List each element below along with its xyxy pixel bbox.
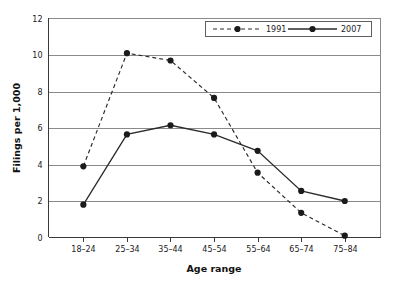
data-point-2007 (124, 131, 130, 137)
y-tick-label: 4 (37, 161, 42, 170)
x-tick-label: 45–54 (202, 245, 226, 254)
data-point-1991 (342, 233, 348, 239)
y-tick-label: 8 (37, 88, 42, 97)
data-point-2007 (80, 202, 86, 208)
chart-legend: 19912007 (206, 22, 372, 37)
data-point-2007 (298, 188, 304, 194)
data-point-1991 (124, 50, 130, 56)
data-point-1991 (167, 57, 173, 63)
data-point-2007 (255, 148, 261, 154)
legend-label-2007: 2007 (341, 25, 361, 34)
x-tick-label: 75–84 (333, 245, 357, 254)
data-point-1991 (255, 170, 261, 176)
y-tick-label: 10 (32, 51, 42, 60)
chart-container: 024681012 18–2425–3435–4445–5455–6465–74… (0, 0, 395, 281)
legend-marker-2007 (309, 26, 315, 32)
x-tick-label: 55–64 (246, 245, 270, 254)
data-point-1991 (80, 163, 86, 169)
line-chart: 024681012 18–2425–3435–4445–5455–6465–74… (0, 0, 395, 281)
y-tick-label: 2 (37, 197, 42, 206)
legend-label-1991: 1991 (266, 25, 286, 34)
y-tick-label: 0 (37, 234, 42, 243)
chart-background (0, 0, 395, 281)
legend-marker-1991 (234, 26, 240, 32)
data-point-2007 (342, 198, 348, 204)
data-point-1991 (211, 95, 217, 101)
y-tick-label: 12 (32, 15, 42, 24)
x-tick-label: 35–44 (158, 245, 182, 254)
x-tick-label: 25–34 (115, 245, 139, 254)
y-axis-title: Filings per 1,000 (11, 83, 22, 173)
data-point-2007 (167, 122, 173, 128)
data-point-2007 (211, 131, 217, 137)
data-point-1991 (298, 210, 304, 216)
y-tick-label: 6 (37, 124, 42, 133)
x-tick-label: 65–74 (289, 245, 313, 254)
x-tick-label: 18–24 (71, 245, 95, 254)
x-axis-title: Age range (186, 263, 241, 274)
